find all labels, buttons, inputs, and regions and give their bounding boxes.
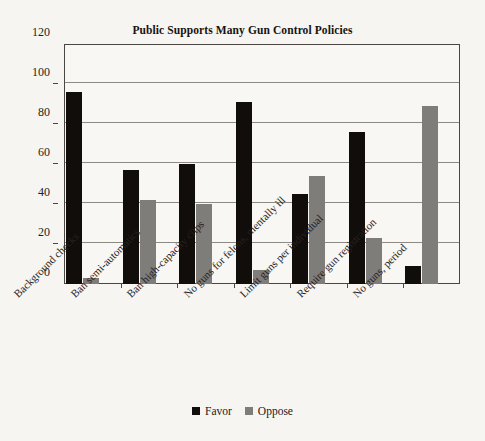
bar-favor xyxy=(236,102,252,284)
bar-favor xyxy=(349,132,365,284)
bar-favor xyxy=(123,170,139,284)
favor-swatch-icon xyxy=(192,407,200,415)
y-tick-mark xyxy=(53,123,58,124)
y-tick-label: 80 xyxy=(38,106,50,118)
y-tick-mark xyxy=(53,203,58,204)
bar-group xyxy=(403,44,460,284)
x-axis-labels: Background checksBan semi-automaticsBan … xyxy=(0,288,485,398)
legend-entry-favor: Favor xyxy=(192,405,232,417)
bar-oppose xyxy=(422,106,438,284)
y-tick-label: 20 xyxy=(38,226,50,238)
bar-chart: Public Supports Many Gun Control Policie… xyxy=(0,0,485,441)
y-tick-label: 40 xyxy=(38,186,50,198)
y-tick-label: 120 xyxy=(32,26,50,38)
y-axis: 020406080100120 xyxy=(0,44,58,284)
y-tick-label: 60 xyxy=(38,146,50,158)
y-tick-mark xyxy=(53,163,58,164)
legend-label: Favor xyxy=(205,405,232,417)
bar-favor xyxy=(405,266,421,284)
y-tick-label: 100 xyxy=(32,66,50,78)
legend-label: Oppose xyxy=(258,405,293,417)
chart-legend: FavorOppose xyxy=(0,405,485,417)
chart-title: Public Supports Many Gun Control Policie… xyxy=(0,24,485,36)
y-tick-mark xyxy=(53,83,58,84)
oppose-swatch-icon xyxy=(245,407,253,415)
bar-favor xyxy=(66,92,82,284)
legend-entry-oppose: Oppose xyxy=(245,405,293,417)
